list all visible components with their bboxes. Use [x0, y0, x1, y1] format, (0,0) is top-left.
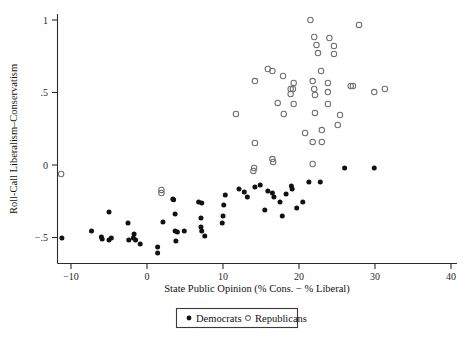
data-point [252, 185, 257, 190]
y-tick-label: .5 [41, 87, 49, 98]
x-tick-label: 10 [218, 271, 228, 282]
data-point [89, 228, 94, 233]
data-point [294, 205, 299, 210]
data-point [198, 215, 203, 220]
data-point [160, 219, 165, 224]
data-point [171, 197, 176, 202]
data-point [107, 209, 112, 214]
y-axis-title: Roll-Call Liberalism–Conservatism [8, 64, 19, 214]
data-point [182, 228, 187, 233]
data-point [138, 242, 143, 247]
data-point [126, 221, 131, 226]
data-point [173, 238, 178, 243]
data-point [284, 192, 289, 197]
data-point [126, 237, 131, 242]
data-point [202, 234, 207, 239]
x-tick-label: 20 [294, 271, 304, 282]
data-point [280, 214, 285, 219]
data-point [258, 183, 263, 188]
data-point [155, 251, 160, 256]
data-point [262, 207, 267, 212]
data-point [236, 187, 241, 192]
data-point [223, 193, 228, 198]
data-point [242, 189, 247, 194]
data-point [300, 199, 305, 204]
data-point [318, 179, 323, 184]
scatter-plot-figure: 1.50−.5 Roll-Call Liberalism–Conservatis… [0, 0, 472, 338]
data-point [220, 221, 225, 226]
data-point [278, 199, 283, 204]
data-point [100, 236, 105, 241]
data-point [271, 195, 276, 200]
data-point [221, 203, 226, 208]
chart-canvas: 1.50−.5 Roll-Call Liberalism–Conservatis… [0, 0, 472, 338]
chart-legend: Democrats Republicans [177, 309, 307, 328]
data-point [265, 188, 270, 193]
y-tick-label: 0 [43, 160, 48, 171]
data-point [199, 200, 204, 205]
y-tick-label: 1 [43, 15, 48, 26]
x-tick-label: 30 [370, 271, 380, 282]
legend-marker-democrats [187, 316, 192, 321]
y-tick-label: −.5 [35, 232, 48, 243]
data-point [109, 235, 114, 240]
x-axis-title: State Public Opinion (% Cons. − % Libera… [164, 283, 350, 295]
data-point [221, 213, 226, 218]
data-point [59, 235, 64, 240]
data-point [372, 166, 377, 171]
legend-label-republicans: Republicans [255, 313, 307, 324]
data-point [245, 195, 250, 200]
x-tick-label: 0 [145, 271, 150, 282]
data-point [290, 187, 295, 192]
x-tick-label: −10 [63, 271, 79, 282]
legend-label-democrats: Democrats [196, 313, 241, 324]
x-tick-label: 40 [446, 271, 456, 282]
data-point [155, 244, 160, 249]
data-point [173, 212, 178, 217]
data-point [342, 166, 347, 171]
data-point [175, 229, 180, 234]
data-point [306, 179, 311, 184]
data-point [133, 237, 138, 242]
data-point [199, 228, 204, 233]
